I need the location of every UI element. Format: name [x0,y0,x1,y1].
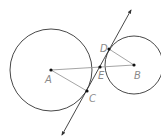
label-e: E [98,70,105,81]
segment-ac [51,70,87,91]
segment-ab [51,65,134,70]
point-b [132,63,135,66]
point-d [107,47,110,50]
label-c: C [89,93,96,104]
geometry-diagram: A B C D E [0,0,161,137]
point-e [98,65,101,68]
label-d: D [100,43,108,54]
tangent-line [62,10,131,135]
label-b: B [134,70,141,81]
label-a: A [44,74,52,85]
segment-bd [109,49,134,65]
point-a [49,68,52,71]
